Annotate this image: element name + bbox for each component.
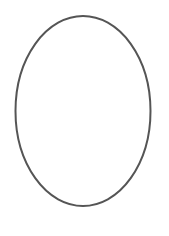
drawing-canvas (0, 0, 169, 236)
ellipse-outline (16, 16, 151, 206)
ellipse-figure (0, 0, 169, 236)
